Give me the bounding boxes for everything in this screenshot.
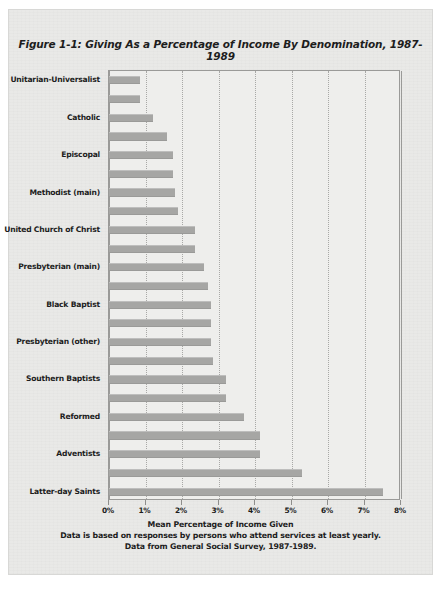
bar bbox=[109, 245, 195, 253]
x-axis-tick-label: 5% bbox=[284, 506, 296, 515]
bar bbox=[109, 469, 302, 477]
source-caption: Data from General Social Survey, 1987-19… bbox=[9, 541, 432, 552]
x-axis-tick bbox=[145, 500, 146, 505]
x-axis-tick-label: 4% bbox=[248, 506, 260, 515]
bar bbox=[109, 207, 178, 215]
bar bbox=[109, 76, 140, 84]
bar bbox=[109, 151, 173, 159]
y-axis-label: Latter-day Saints bbox=[29, 486, 100, 495]
bar bbox=[109, 188, 175, 196]
y-axis-label: Reformed bbox=[60, 411, 100, 420]
x-axis-tick bbox=[327, 500, 328, 505]
x-axis-tick bbox=[291, 500, 292, 505]
y-axis-label: United Church of Christ bbox=[4, 224, 100, 233]
x-axis-tick-label: 7% bbox=[357, 506, 369, 515]
bar-series bbox=[109, 71, 399, 499]
x-axis-tick bbox=[364, 500, 365, 505]
y-axis-labels: Unitarian-UniversalistCatholicEpiscopalM… bbox=[9, 70, 104, 500]
chart-captions: Mean Percentage of Income Given Data is … bbox=[9, 519, 432, 552]
bar bbox=[109, 413, 244, 421]
chart-title: Figure 1-1: Giving As a Percentage of In… bbox=[9, 38, 432, 62]
y-axis-label: Presbyterian (other) bbox=[16, 337, 100, 346]
x-axis-tick bbox=[108, 500, 109, 505]
bar bbox=[109, 114, 153, 122]
y-axis-label: Episcopal bbox=[61, 150, 100, 159]
bar bbox=[109, 263, 204, 271]
x-axis-tick-labels: 0%1%2%3%4%5%6%7%8% bbox=[108, 506, 400, 518]
x-axis-tick-label: 3% bbox=[211, 506, 223, 515]
bar bbox=[109, 319, 211, 327]
x-axis-tick bbox=[181, 500, 182, 505]
bar bbox=[109, 95, 140, 103]
bar bbox=[109, 488, 383, 496]
y-axis-label: Adventists bbox=[56, 449, 100, 458]
page-sheet: Worship and Giving Figure 1-1: Giving As… bbox=[9, 10, 432, 574]
bar bbox=[109, 338, 211, 346]
bar bbox=[109, 226, 195, 234]
bar bbox=[109, 132, 167, 140]
axis-title-caption: Mean Percentage of Income Given bbox=[9, 519, 432, 530]
x-axis-tick-label: 8% bbox=[394, 506, 406, 515]
x-axis-tick-label: 0% bbox=[102, 506, 114, 515]
x-axis-tick-label: 6% bbox=[321, 506, 333, 515]
bar bbox=[109, 282, 208, 290]
bar bbox=[109, 170, 173, 178]
plot-area bbox=[108, 70, 400, 500]
gridline-8pct bbox=[401, 71, 402, 499]
y-axis-label: Catholic bbox=[67, 112, 100, 121]
x-axis-tick bbox=[218, 500, 219, 505]
bar bbox=[109, 431, 260, 439]
x-axis-tick-label: 2% bbox=[175, 506, 187, 515]
bar bbox=[109, 301, 211, 309]
y-axis-label: Methodist (main) bbox=[29, 187, 100, 196]
y-axis-label: Presbyterian (main) bbox=[18, 262, 100, 271]
bar bbox=[109, 357, 213, 365]
bar bbox=[109, 394, 226, 402]
x-axis-tick bbox=[254, 500, 255, 505]
y-axis-label: Unitarian-Universalist bbox=[10, 75, 100, 84]
y-axis-label: Black Baptist bbox=[46, 299, 100, 308]
scanned-page: Worship and Giving Figure 1-1: Giving As… bbox=[0, 0, 441, 591]
x-axis-tick bbox=[400, 500, 401, 505]
y-axis-label: Southern Baptists bbox=[26, 374, 100, 383]
note-caption: Data is based on responses by persons wh… bbox=[9, 530, 432, 541]
x-axis-tick-label: 1% bbox=[138, 506, 150, 515]
bar bbox=[109, 450, 260, 458]
bar bbox=[109, 375, 226, 383]
